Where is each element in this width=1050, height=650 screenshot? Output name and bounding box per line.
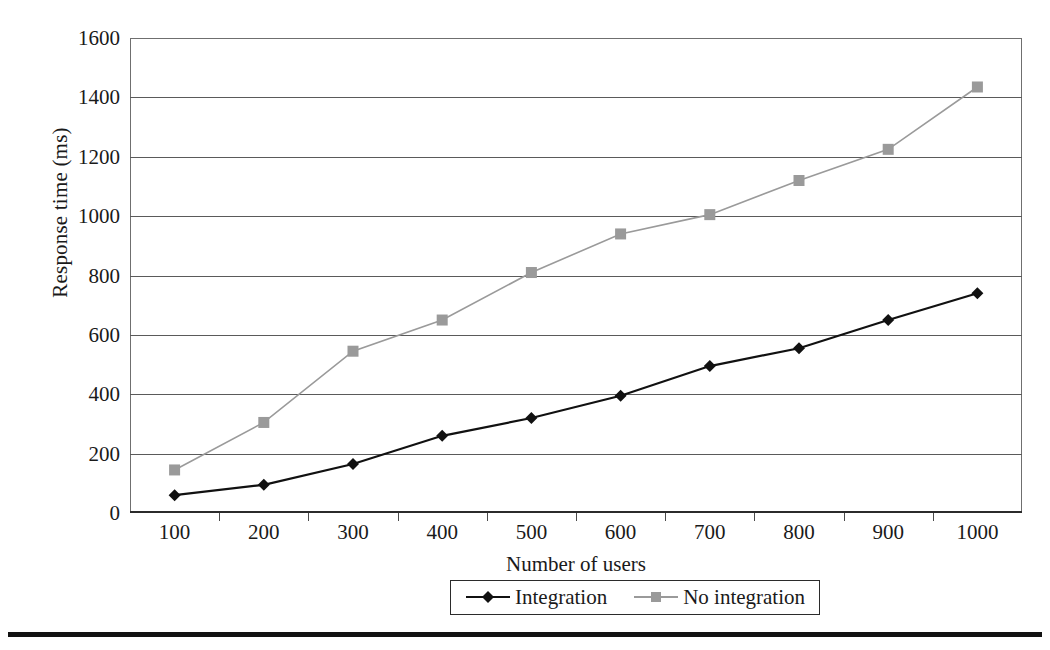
y-tick-label: 1400 bbox=[40, 85, 120, 110]
legend-item-integration: Integration bbox=[465, 585, 607, 610]
y-tick-label: 1200 bbox=[40, 144, 120, 169]
plot-area bbox=[130, 38, 1022, 513]
x-tick-label: 600 bbox=[576, 520, 666, 545]
legend-item-no-integration: No integration bbox=[633, 585, 805, 610]
data-point-marker bbox=[704, 360, 716, 372]
chart-figure: Response time (ms) 020040060080010001200… bbox=[0, 0, 1050, 650]
data-point-marker bbox=[169, 489, 181, 501]
x-axis-title: Number of users bbox=[130, 552, 1022, 577]
data-point-marker bbox=[615, 228, 626, 239]
data-point-marker bbox=[348, 346, 359, 357]
x-tick-label: 500 bbox=[486, 520, 576, 545]
data-point-marker bbox=[883, 144, 894, 155]
y-tick-label: 1000 bbox=[40, 204, 120, 229]
data-point-marker bbox=[615, 390, 627, 402]
data-point-marker bbox=[793, 342, 805, 354]
y-tick-label: 800 bbox=[40, 263, 120, 288]
data-point-marker bbox=[347, 458, 359, 470]
x-tick-label: 400 bbox=[397, 520, 487, 545]
x-tick-label: 300 bbox=[308, 520, 398, 545]
x-tick-label: 700 bbox=[665, 520, 755, 545]
data-point-marker bbox=[526, 267, 537, 278]
x-axis-tick-labels: 1002003004005006007008009001000 bbox=[130, 520, 1022, 550]
series-lines bbox=[130, 38, 1022, 513]
data-point-marker bbox=[794, 175, 805, 186]
diamond-marker-icon bbox=[465, 588, 511, 606]
legend-label-no-integration: No integration bbox=[683, 585, 805, 610]
series-line bbox=[175, 293, 978, 495]
x-tick-label: 100 bbox=[130, 520, 220, 545]
data-point-marker bbox=[436, 430, 448, 442]
y-tick-label: 1600 bbox=[40, 26, 120, 51]
y-tick-label: 200 bbox=[40, 441, 120, 466]
data-point-marker bbox=[169, 464, 180, 475]
y-tick-label: 400 bbox=[40, 382, 120, 407]
data-point-marker bbox=[971, 287, 983, 299]
chart-legend: Integration No integration bbox=[450, 580, 820, 615]
data-point-marker bbox=[525, 412, 537, 424]
data-point-marker bbox=[882, 314, 894, 326]
y-tick-label: 0 bbox=[40, 501, 120, 526]
x-tick-label: 900 bbox=[843, 520, 933, 545]
bottom-rule bbox=[8, 632, 1042, 637]
legend-label-integration: Integration bbox=[515, 585, 607, 610]
y-axis-tick-labels: 02004006008001000120014001600 bbox=[40, 0, 120, 650]
series-line bbox=[175, 87, 978, 470]
y-tick-label: 600 bbox=[40, 322, 120, 347]
x-tick-label: 200 bbox=[219, 520, 309, 545]
data-point-marker bbox=[704, 209, 715, 220]
square-marker-icon bbox=[633, 588, 679, 606]
x-tick-label: 800 bbox=[754, 520, 844, 545]
data-point-marker bbox=[972, 81, 983, 92]
data-point-marker bbox=[258, 479, 270, 491]
data-point-marker bbox=[258, 417, 269, 428]
x-tick-label: 1000 bbox=[932, 520, 1022, 545]
data-point-marker bbox=[437, 315, 448, 326]
